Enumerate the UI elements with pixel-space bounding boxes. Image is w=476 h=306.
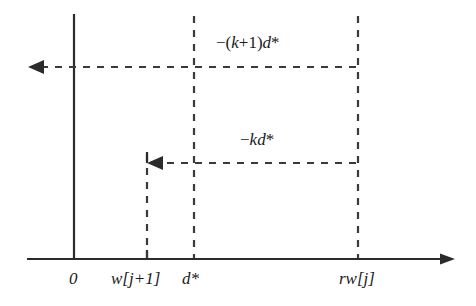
tick-label-w-j-plus-1: w[j+1] (111, 270, 160, 287)
upper-star: * (271, 33, 280, 52)
number-line-diagram: −(k+1)d* −kd* 0 w[j+1] d* rw[j] (0, 0, 476, 306)
upper-one: 1 (248, 33, 257, 52)
lower-star: * (266, 130, 275, 149)
lower-k: k (250, 130, 258, 149)
lower-displacement-label: −kd* (240, 131, 274, 148)
upper-k: k (231, 33, 239, 52)
upper-plus: + (239, 33, 249, 52)
x-axis-arrowhead-icon (440, 254, 455, 265)
upper-displacement-label: −(k+1)d* (216, 34, 280, 51)
tick-label-origin: 0 (69, 270, 78, 287)
lower-minus-sign: − (240, 130, 250, 149)
upper-d: d (263, 33, 272, 52)
tick-label-rw-j: rw[j] (339, 270, 375, 287)
lower-displacement-arrowhead-icon (147, 156, 163, 170)
upper-minus-sign: − (216, 33, 226, 52)
upper-displacement-arrowhead-icon (28, 60, 44, 74)
tick-label-d-star: d* (182, 270, 199, 287)
lower-d: d (257, 130, 266, 149)
